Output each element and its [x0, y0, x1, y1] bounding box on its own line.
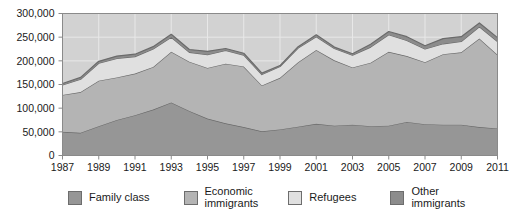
x-tick-label: 2011: [486, 161, 509, 173]
legend-swatch-icon: [390, 191, 404, 205]
y-tick-label: 150,000: [17, 78, 55, 90]
x-axis-ticks: 1987198919911993199519971999200120032005…: [51, 156, 509, 173]
legend-item-0[interactable]: Family class: [68, 191, 150, 205]
legend-item-3[interactable]: Other immigrants: [390, 186, 465, 209]
legend-item-label: Refugees: [309, 192, 356, 204]
chart-legend: Family classEconomic immigrantsRefugeesO…: [0, 178, 514, 217]
x-tick-label: 1999: [268, 161, 292, 173]
x-tick-label: 2007: [413, 161, 437, 173]
y-axis-ticks: 050,000100,000150,000200,000250,000300,0…: [17, 7, 63, 161]
legend-swatch-icon: [184, 191, 198, 205]
y-tick-label: 300,000: [17, 7, 55, 19]
y-tick-label: 100,000: [17, 102, 55, 114]
x-tick-label: 2003: [341, 161, 365, 173]
x-tick-label: 1997: [232, 161, 256, 173]
x-tick-label: 2005: [377, 161, 401, 173]
y-tick-label: 0: [49, 149, 55, 161]
stacked-area-chart: 050,000100,000150,000200,000250,000300,0…: [0, 0, 514, 217]
x-tick-label: 1989: [87, 161, 111, 173]
y-tick-label: 50,000: [22, 126, 54, 138]
legend-item-1[interactable]: Economic immigrants: [184, 186, 259, 209]
x-tick-label: 1991: [123, 161, 147, 173]
y-tick-label: 200,000: [17, 55, 55, 67]
legend-item-2[interactable]: Refugees: [288, 191, 356, 205]
x-tick-label: 2009: [450, 161, 474, 173]
y-tick-label: 250,000: [17, 31, 55, 43]
legend-item-label: Other immigrants: [411, 186, 465, 209]
legend-swatch-icon: [68, 191, 82, 205]
x-tick-label: 1995: [196, 161, 220, 173]
legend-item-label: Family class: [89, 192, 150, 204]
legend-swatch-icon: [288, 191, 302, 205]
legend-item-label: Economic immigrants: [205, 186, 259, 209]
x-tick-label: 1987: [51, 161, 75, 173]
x-tick-label: 2001: [305, 161, 329, 173]
x-tick-label: 1993: [160, 161, 184, 173]
